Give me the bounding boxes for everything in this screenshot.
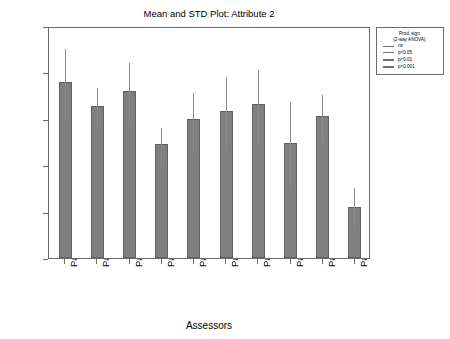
legend: Prod. sign. (2-way ANOVA): nsp<0.05p<0.0… — [376, 27, 444, 75]
bar — [91, 106, 104, 258]
error-bar — [354, 188, 355, 227]
figure-canvas: Mean and STD Plot: Attribute 2 Score 020… — [0, 0, 450, 339]
legend-line-swatch — [383, 59, 394, 61]
x-tick-mark — [96, 259, 97, 264]
legend-label: p<0.001 — [396, 64, 415, 70]
plot-frame — [48, 27, 370, 259]
error-bar — [65, 49, 66, 119]
error-bar — [258, 70, 259, 144]
x-tick-mark — [193, 259, 194, 264]
x-axis-title: Assessors — [48, 320, 370, 331]
x-tick-mark — [322, 259, 323, 264]
legend-entry: p<0.001 — [380, 64, 440, 70]
legend-entry: p<0.05 — [380, 50, 440, 56]
legend-entries: nsp<0.05p<0.01p<0.001 — [380, 43, 440, 70]
legend-title: Prod. sign. (2-way ANOVA): — [380, 31, 440, 42]
error-bar — [161, 128, 162, 165]
legend-entry: p<0.01 — [380, 57, 440, 63]
error-bar — [226, 77, 227, 149]
x-tick-mark — [129, 259, 130, 264]
x-tick-mark — [64, 259, 65, 264]
y-tick-mark — [43, 259, 48, 260]
legend-label: ns — [396, 43, 403, 49]
legend-swatch-cell — [380, 46, 396, 47]
x-tick-mark — [225, 259, 226, 264]
x-tick-mark — [161, 259, 162, 264]
error-bar — [129, 63, 130, 121]
x-tick-mark — [354, 259, 355, 264]
error-bar — [322, 95, 323, 141]
legend-swatch-cell — [380, 59, 396, 61]
legend-title-line-2: (2-way ANOVA): — [380, 37, 440, 43]
legend-entry: ns — [380, 43, 440, 49]
chart-title: Mean and STD Plot: Attribute 2 — [48, 8, 370, 19]
legend-line-swatch — [383, 66, 394, 68]
x-tick-mark — [290, 259, 291, 264]
plot-area — [49, 28, 369, 258]
legend-swatch-cell — [380, 66, 396, 68]
error-bar — [97, 88, 98, 127]
legend-label: p<0.05 — [396, 50, 412, 56]
legend-line-swatch — [383, 52, 394, 53]
x-tick-mark — [257, 259, 258, 264]
legend-swatch-cell — [380, 52, 396, 53]
legend-line-swatch — [383, 46, 394, 47]
error-bar — [193, 93, 194, 151]
error-bar — [290, 102, 291, 188]
legend-label: p<0.01 — [396, 57, 412, 63]
